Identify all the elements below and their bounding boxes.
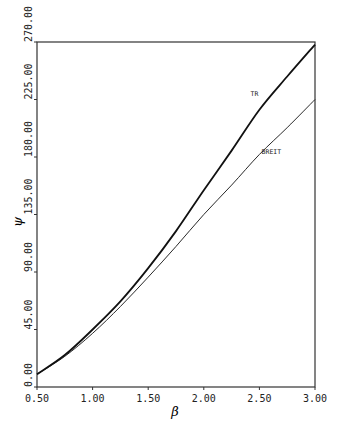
- series-group: [37, 45, 315, 375]
- series-line-tr: [37, 45, 315, 375]
- x-tick-label: 2.00: [192, 393, 216, 404]
- line-chart: 0.0045.0090.00135.00180.00225.00270.00 0…: [0, 0, 340, 426]
- y-tick-label: 180.00: [23, 121, 34, 157]
- x-tick-label: 1.50: [136, 393, 160, 404]
- curve-labels: TRBREIT: [251, 90, 282, 157]
- x-axis-ticks: 0.501.001.502.002.503.00: [25, 387, 327, 404]
- y-tick-label: 45.00: [23, 299, 34, 329]
- y-tick-label: 90.00: [23, 242, 34, 272]
- y-axis-ticks: 0.0045.0090.00135.00180.00225.00270.00: [23, 6, 37, 387]
- curve-label-tr: TR: [251, 90, 259, 98]
- y-tick-label: 0.00: [23, 363, 34, 387]
- y-tick-label: 225.00: [23, 63, 34, 99]
- x-tick-label: 0.50: [25, 393, 49, 404]
- x-tick-label: 2.50: [247, 393, 271, 404]
- x-tick-label: 1.00: [81, 393, 105, 404]
- y-tick-label: 135.00: [23, 178, 34, 214]
- y-axis-label: ψ: [10, 216, 25, 227]
- x-tick-label: 3.00: [303, 393, 327, 404]
- curve-label-breit: BREIT: [262, 148, 282, 156]
- x-axis-label: β: [170, 404, 179, 419]
- y-tick-label: 270.00: [23, 6, 34, 42]
- series-line-breit: [37, 100, 315, 375]
